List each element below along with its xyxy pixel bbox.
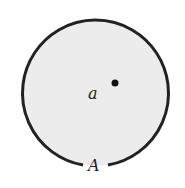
point-dot [112, 80, 119, 87]
point-label: a [88, 84, 98, 103]
diagram-canvas: a A [0, 0, 185, 188]
boundary-label: A [86, 156, 100, 175]
